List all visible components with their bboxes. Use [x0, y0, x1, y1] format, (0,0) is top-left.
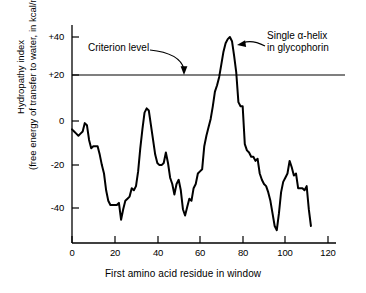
x-tick-label-80: 80	[229, 247, 257, 258]
alpha-helix-label-line1: Single α-helix	[267, 30, 329, 42]
x-tick-label-20: 20	[101, 247, 129, 258]
alpha-helix-label: Single α-helix in glycophorin	[267, 30, 329, 54]
x-tick-label-120: 120	[314, 247, 342, 258]
x-tick-label-0: 0	[58, 247, 86, 258]
alpha-helix-arrowhead	[237, 40, 246, 47]
x-tick-label-40: 40	[144, 247, 172, 258]
criterion-level-arrowhead	[181, 66, 188, 75]
hydropathy-data-curve	[72, 37, 311, 230]
x-tick-label-60: 60	[186, 247, 214, 258]
x-tick-label-100: 100	[271, 247, 299, 258]
alpha-helix-arrow	[243, 42, 265, 46]
y-axis-ticks	[72, 37, 79, 208]
x-axis-ticks	[72, 236, 328, 243]
alpha-helix-label-line2: in glycophorin	[267, 42, 329, 54]
y-axis-title-line2: (free energy of transfer to water, in kc…	[27, 0, 39, 192]
criterion-level-label: Criterion level	[88, 42, 149, 54]
y-axis-title: Hydropathy index (free energy of transfe…	[15, 0, 45, 192]
y-axis-title-line1: Hydropathy index	[15, 0, 27, 192]
x-axis-title: First amino acid residue in window	[0, 268, 366, 279]
hydropathy-plot-figure: +40 +20 0 -20 -40 0 20 40 60 80 100 120 …	[0, 0, 366, 293]
y-tick-label-minus-40: -40	[30, 202, 64, 213]
criterion-level-arrow	[150, 50, 184, 69]
